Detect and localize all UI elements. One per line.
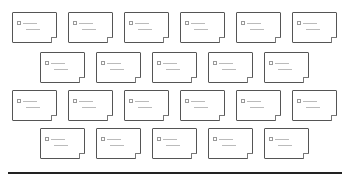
text-line [303,101,317,102]
note-card [292,90,337,121]
text-line [51,63,65,64]
text-line [135,23,149,24]
text-line [110,69,124,70]
page-curl-icon [219,115,225,121]
page-curl-icon [247,77,253,83]
checkbox-icon [129,21,133,25]
text-line [247,101,261,102]
text-line [54,69,68,70]
page-curl-icon [303,77,309,83]
page-curl-icon [51,115,57,121]
checkbox-icon [45,61,49,65]
text-line [138,107,152,108]
text-line [303,23,317,24]
text-line [275,63,289,64]
text-line [222,69,236,70]
note-card [68,12,113,43]
checkbox-icon [213,137,217,141]
note-card [292,12,337,43]
note-card [40,128,85,159]
text-line [23,101,37,102]
note-card [152,52,197,83]
note-card [12,90,57,121]
checkbox-icon [101,137,105,141]
text-line [306,29,320,30]
page-curl-icon [135,153,141,159]
checkbox-icon [157,61,161,65]
text-line [278,69,292,70]
text-line [79,23,93,24]
checkbox-icon [17,21,21,25]
text-line [26,29,40,30]
page-curl-icon [275,115,281,121]
page-curl-icon [219,37,225,43]
text-line [191,101,205,102]
text-line [194,29,208,30]
note-card [124,12,169,43]
text-line [166,145,180,146]
checkbox-icon [45,137,49,141]
checkbox-icon [297,99,301,103]
text-line [163,139,177,140]
page-curl-icon [135,77,141,83]
text-line [82,107,96,108]
page-curl-icon [163,37,169,43]
text-line [54,145,68,146]
page-curl-icon [247,153,253,159]
text-line [275,139,289,140]
text-line [219,63,233,64]
note-card [208,52,253,83]
text-line [278,145,292,146]
page-curl-icon [107,115,113,121]
text-line [163,63,177,64]
text-line [79,101,93,102]
text-line [247,23,261,24]
page-curl-icon [303,153,309,159]
checkbox-icon [269,137,273,141]
checkbox-icon [73,99,77,103]
note-card [152,128,197,159]
checkbox-icon [73,21,77,25]
note-card [236,12,281,43]
text-line [250,107,264,108]
note-card [180,12,225,43]
text-line [222,145,236,146]
page-curl-icon [331,115,337,121]
text-line [82,29,96,30]
note-card [68,90,113,121]
note-card [264,52,309,83]
checkbox-icon [101,61,105,65]
note-card [96,52,141,83]
note-card [264,128,309,159]
page-curl-icon [331,37,337,43]
page-curl-icon [79,153,85,159]
checkbox-icon [241,99,245,103]
text-line [191,23,205,24]
checkbox-icon [185,21,189,25]
text-line [107,63,121,64]
note-card [236,90,281,121]
text-line [110,145,124,146]
text-line [219,139,233,140]
page-curl-icon [107,37,113,43]
text-line [107,139,121,140]
note-card [180,90,225,121]
checkbox-icon [129,99,133,103]
page-curl-icon [163,115,169,121]
note-card [40,52,85,83]
note-card [12,12,57,43]
checkbox-icon [213,61,217,65]
note-card [96,128,141,159]
text-line [135,101,149,102]
checkbox-icon [185,99,189,103]
text-line [166,69,180,70]
text-line [138,29,152,30]
page-curl-icon [191,77,197,83]
checkbox-icon [297,21,301,25]
text-line [250,29,264,30]
note-card [208,128,253,159]
checkbox-icon [241,21,245,25]
page-curl-icon [275,37,281,43]
checkbox-icon [157,137,161,141]
page-curl-icon [79,77,85,83]
